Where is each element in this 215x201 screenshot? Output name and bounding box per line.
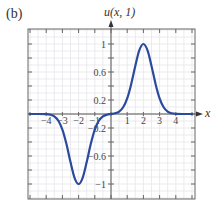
y-tick-label: −0.6	[88, 151, 106, 162]
x-axis-arrow-icon	[196, 112, 203, 117]
y-tick-label: 1	[101, 39, 106, 50]
x-tick-label: −4	[41, 115, 52, 126]
x-tick-label: 3	[157, 115, 162, 126]
x-tick-label: 4	[173, 115, 178, 126]
y-tick-label: 0.6	[94, 67, 107, 78]
chart: −4−3−2−1123410.60.2−0.2−0.6−1 u(x, 1) x	[0, 0, 215, 201]
y-axis-arrow-icon	[109, 20, 114, 27]
x-tick-label: 2	[141, 115, 146, 126]
x-axis-label: x	[204, 106, 211, 120]
y-tick-label: 0.2	[94, 95, 107, 106]
y-tick-label: −1	[95, 179, 106, 190]
y-axis-label: u(x, 1)	[104, 5, 135, 19]
x-tick-label: −2	[73, 115, 84, 126]
x-tick-label: 1	[125, 115, 130, 126]
